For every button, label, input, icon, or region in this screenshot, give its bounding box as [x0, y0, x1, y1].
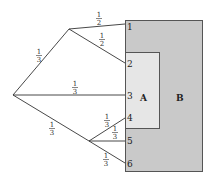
svg-text:1: 1	[113, 125, 117, 133]
prob-upper-2: 1 2	[99, 32, 105, 48]
outcome-5: 5	[127, 136, 133, 146]
region-b-label: B	[176, 93, 184, 103]
prob-lower-5: 1 3	[112, 125, 118, 141]
svg-text:1: 1	[100, 32, 104, 40]
svg-text:3: 3	[50, 129, 54, 137]
svg-text:3: 3	[104, 160, 108, 168]
outcome-4: 4	[127, 113, 133, 123]
svg-text:1: 1	[50, 121, 54, 129]
prob-lower-4: 1 3	[104, 113, 110, 129]
outcome-1: 1	[127, 22, 133, 32]
svg-text:3: 3	[113, 133, 117, 141]
outcome-6: 6	[127, 159, 133, 169]
probability-tree-diagram: 1 3 1 3 1 3 1 2 1 2 1	[0, 0, 213, 179]
edge-upper-2	[69, 29, 125, 63]
svg-text:3: 3	[37, 56, 41, 64]
svg-text:1: 1	[105, 113, 109, 121]
svg-text:2: 2	[100, 40, 104, 48]
prob-lower-6: 1 3	[103, 152, 109, 168]
svg-text:1: 1	[104, 152, 108, 160]
prob-root-3: 1 3	[72, 80, 78, 96]
svg-text:3: 3	[73, 88, 77, 96]
fraction-labels: 1 3 1 3 1 3 1 2 1 2 1	[36, 11, 118, 168]
svg-text:1: 1	[73, 80, 77, 88]
prob-root-upper: 1 3	[36, 48, 42, 64]
prob-upper-1: 1 2	[96, 11, 102, 27]
region-a-label: A	[139, 93, 148, 103]
prob-root-lower: 1 3	[49, 121, 55, 137]
tree-edges	[13, 24, 125, 163]
svg-text:1: 1	[37, 48, 41, 56]
svg-text:1: 1	[97, 11, 101, 19]
outcome-3: 3	[127, 91, 133, 101]
svg-text:3: 3	[105, 121, 109, 129]
outcome-2: 2	[127, 59, 133, 69]
svg-text:2: 2	[97, 19, 101, 27]
